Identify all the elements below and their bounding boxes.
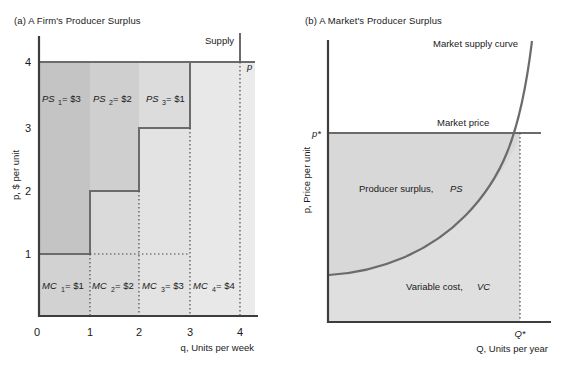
panel-a-ytick-3: 3 [25, 122, 31, 134]
svg-text:VC: VC [477, 281, 490, 292]
svg-text:MC: MC [193, 280, 208, 291]
panel-b-ytick-pstar: p* [311, 128, 321, 139]
panel-a-xtick-0: 0 [34, 326, 40, 338]
panel-a-xtick-1: 1 [87, 326, 93, 338]
svg-text:= $3: = $3 [62, 93, 81, 104]
panel-a-x-axis-title: q, Units per week [181, 342, 255, 353]
panel-b-plot: p* Q* p, Price per unit Q, Units per yea… [301, 38, 551, 354]
svg-text:= $1: = $1 [166, 93, 185, 104]
supply-label: Supply [205, 35, 234, 46]
svg-text:PS: PS [146, 93, 159, 104]
svg-text:Variable cost,: Variable cost, [406, 281, 463, 292]
panel-a-ytick-1: 1 [25, 248, 31, 260]
market-supply-curve-label: Market supply curve [433, 38, 518, 49]
svg-text:MC: MC [42, 280, 57, 291]
panel-b-x-axis-title: Q, Units per year [476, 343, 548, 354]
panel-a-y-axis-title: p, $ per unit [10, 150, 21, 201]
figure-canvas: 4 3 2 1 0 1 2 3 4 p, $ per unit q, Units… [0, 0, 568, 369]
svg-text:Producer surplus,: Producer surplus, [359, 183, 433, 194]
panel-a-plot: 4 3 2 1 0 1 2 3 4 p, $ per unit q, Units… [10, 33, 258, 353]
market-price-label: Market price [437, 117, 489, 128]
panel-a-xtick-4: 4 [237, 326, 243, 338]
mc-column-4 [190, 62, 240, 316]
svg-text:PS: PS [93, 93, 106, 104]
panel-a-xtick-2: 2 [136, 326, 142, 338]
panel-a-ytick-4: 4 [25, 56, 31, 68]
svg-text:MC: MC [92, 280, 107, 291]
ps-block-1 [40, 62, 90, 254]
producer-surplus-figure: (a) A Firm's Producer Surplus (b) A Mark… [0, 0, 568, 369]
panel-a-xtick-3: 3 [187, 326, 193, 338]
svg-text:PS: PS [42, 93, 55, 104]
panel-b-xtick-qstar: Q* [514, 328, 525, 339]
ps-block-2 [90, 62, 139, 191]
svg-text:PS: PS [450, 183, 463, 194]
figure-bottom-margin [0, 355, 568, 369]
svg-text:= $1: = $1 [65, 280, 84, 291]
svg-text:= $2: = $2 [115, 280, 134, 291]
svg-text:= $2: = $2 [113, 93, 132, 104]
svg-text:MC: MC [142, 280, 157, 291]
svg-text:= $3: = $3 [165, 280, 184, 291]
svg-text:= $4: = $4 [216, 280, 235, 291]
panel-b-y-axis-title: p, Price per unit [301, 146, 312, 213]
variable-cost-region-label: Variable cost, VC [406, 281, 490, 292]
price-p-label: p [246, 61, 252, 72]
panel-a-ytick-2: 2 [25, 185, 31, 197]
